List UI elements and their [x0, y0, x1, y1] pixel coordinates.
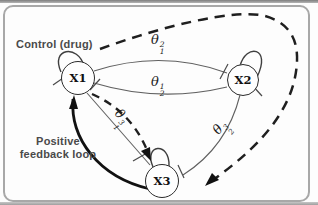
- theta-symbol: θ: [151, 74, 159, 89]
- positive-feedback-label-line1: Positive: [36, 135, 80, 147]
- arrow-barb-at-x3-right: [178, 165, 184, 178]
- theta-symbol: θ: [151, 32, 159, 47]
- edge-x1-to-x2: [94, 60, 227, 73]
- node-x2-label: X2: [235, 73, 252, 87]
- theta-subscript: 2: [160, 90, 165, 97]
- figure-network-diagram: X1 X2 X3 Control (drug) Positive feedbac…: [0, 0, 318, 205]
- control-dashed-curve-outer: [100, 14, 297, 180]
- control-arrowhead-at-x3: [141, 147, 151, 161]
- positive-feedback-label: Positive feedback loop: [8, 135, 108, 161]
- feedback-arrowhead-at-x1: [69, 95, 78, 109]
- theta-subscript: 1: [160, 48, 165, 55]
- edge-label-theta-1-2: θ21: [151, 33, 165, 55]
- edge-label-theta-2-1: θ12: [151, 75, 165, 97]
- control-arrowhead-bottom-right: [205, 173, 219, 186]
- node-x2: X2: [227, 64, 259, 96]
- control-drug-label: Control (drug): [16, 38, 93, 50]
- node-x1: X1: [61, 61, 95, 95]
- node-x1-label: X1: [70, 71, 87, 85]
- node-x3: X3: [145, 164, 179, 198]
- positive-feedback-label-line2: feedback loop: [20, 148, 97, 160]
- node-x3-label: X3: [154, 174, 171, 188]
